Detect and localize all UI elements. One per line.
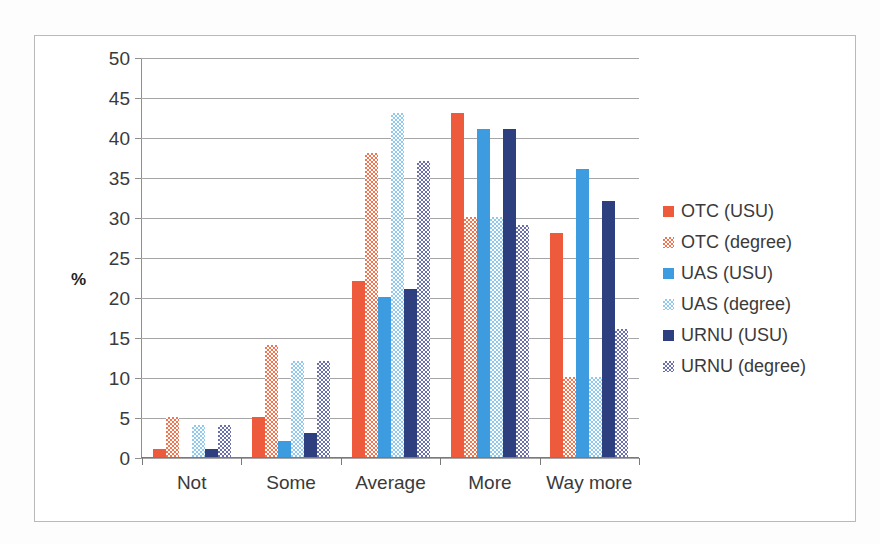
x-axis-tick (142, 458, 143, 465)
bar (602, 201, 615, 457)
bar (417, 161, 430, 457)
y-axis-tick-label: 35 (109, 169, 130, 188)
x-axis-category-label: Way more (546, 472, 632, 494)
legend-swatch-icon (663, 268, 674, 279)
bar (464, 217, 477, 457)
bar-group (352, 57, 430, 457)
legend-swatch-icon (663, 237, 674, 248)
y-axis-tick-label: 40 (109, 129, 130, 148)
legend-label: UAS (degree) (681, 294, 791, 315)
legend-label: UAS (USU) (681, 263, 773, 284)
legend-item[interactable]: URNU (USU) (663, 320, 806, 351)
y-axis-tick-label: 10 (109, 369, 130, 388)
x-axis-tick (639, 458, 640, 465)
bar (252, 417, 265, 457)
bar (391, 113, 404, 457)
x-axis-tick (540, 458, 541, 465)
x-axis-category-label: Average (355, 472, 425, 494)
bar (378, 297, 391, 457)
bar (503, 129, 516, 457)
y-axis-tick-label: 50 (109, 49, 130, 68)
bar (278, 441, 291, 457)
bar (192, 425, 205, 457)
y-axis-tick (135, 98, 141, 99)
bar (563, 377, 576, 457)
x-axis-tick (440, 458, 441, 465)
y-axis-tick (135, 58, 141, 59)
x-axis-tick (241, 458, 242, 465)
legend-label: OTC (degree) (681, 232, 792, 253)
bar (291, 361, 304, 457)
y-axis-tick (135, 298, 141, 299)
legend-item[interactable]: UAS (USU) (663, 258, 806, 289)
bar (550, 233, 563, 457)
y-axis-tick (135, 218, 141, 219)
plot-area: 50454035302520151050NotSomeAverageMoreWa… (141, 58, 639, 458)
legend-label: OTC (USU) (681, 201, 774, 222)
legend-swatch-icon (663, 361, 674, 372)
x-axis-category-label: Not (177, 472, 207, 494)
bar (317, 361, 330, 457)
legend-swatch-icon (663, 206, 674, 217)
legend-label: URNU (degree) (681, 356, 806, 377)
y-axis-tick (135, 458, 141, 459)
legend-label: URNU (USU) (681, 325, 788, 346)
y-axis-tick-label: 45 (109, 89, 130, 108)
y-axis-tick-label: 15 (109, 329, 130, 348)
bar (365, 153, 378, 457)
bar (153, 449, 166, 457)
legend-swatch-icon (663, 330, 674, 341)
y-axis-tick-label: 25 (109, 249, 130, 268)
bar (218, 425, 231, 457)
legend-item[interactable]: OTC (degree) (663, 227, 806, 258)
x-axis-category-label: Some (266, 472, 316, 494)
y-axis-tick (135, 378, 141, 379)
bar-group (451, 57, 529, 457)
y-axis-tick (135, 258, 141, 259)
bar (205, 449, 218, 457)
x-axis-tick (341, 458, 342, 465)
legend-item[interactable]: UAS (degree) (663, 289, 806, 320)
bar (477, 129, 490, 457)
bar (516, 225, 529, 457)
y-axis-tick (135, 178, 141, 179)
bar (265, 345, 278, 457)
y-axis-tick (135, 418, 141, 419)
chart-frame: % 50454035302520151050NotSomeAverageMore… (34, 35, 856, 522)
bar (166, 417, 179, 457)
bar (589, 377, 602, 457)
gridline (141, 458, 639, 459)
bar (615, 329, 628, 457)
y-axis-tick-label: 0 (119, 449, 130, 468)
y-axis-tick (135, 138, 141, 139)
bar (490, 217, 503, 457)
legend-item[interactable]: OTC (USU) (663, 196, 806, 227)
y-axis-tick-label: 5 (119, 409, 130, 428)
plot-inner: 50454035302520151050NotSomeAverageMoreWa… (141, 58, 639, 458)
bar-group (252, 57, 330, 457)
x-axis-category-label: More (468, 472, 511, 494)
bar-group (153, 57, 231, 457)
y-axis-tick-label: 30 (109, 209, 130, 228)
bar (576, 169, 589, 457)
bar-group (550, 57, 628, 457)
y-axis-tick (135, 338, 141, 339)
bar (352, 281, 365, 457)
bar (404, 289, 417, 457)
bar (304, 433, 317, 457)
legend: OTC (USU)OTC (degree)UAS (USU)UAS (degre… (663, 196, 806, 382)
legend-swatch-icon (663, 299, 674, 310)
legend-item[interactable]: URNU (degree) (663, 351, 806, 382)
y-axis-tick-label: 20 (109, 289, 130, 308)
bar (451, 113, 464, 457)
y-axis-title: % (71, 270, 86, 290)
